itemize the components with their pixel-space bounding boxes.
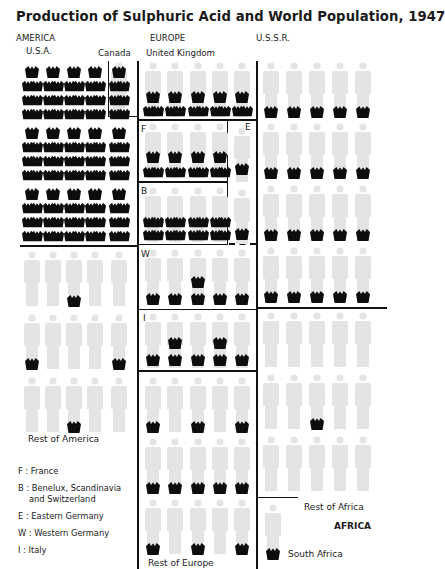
acid-vessel-icon [333,164,347,183]
acid-vessel-icon [287,164,301,183]
person-figure-icon [23,376,41,434]
acid-vessel-icon [264,288,278,307]
person-figure-icon [285,311,303,369]
acid-vessel-icon [52,105,64,124]
legend-item-western-germany: W : Western Germany [18,528,109,539]
acid-vessel-icon [52,166,64,185]
region-label-america: AMERICA [16,33,55,43]
acid-vessel-icon [94,227,106,246]
acid-vessel-icon [73,105,85,124]
person-figure-icon [308,435,326,493]
acid-vessel-icon [310,226,324,245]
acid-vessel-icon [168,479,182,498]
person-figure-icon [285,435,303,493]
person-figure-icon [110,376,128,434]
acid-vessel-icon [235,418,249,437]
person-figure-icon [166,376,184,434]
acid-vessel-icon [333,288,347,307]
person-figure-icon [166,498,184,556]
acid-vessel-icon [191,290,205,309]
label-united-kingdom: United Kingdom [146,48,215,58]
person-figure-icon [65,313,83,371]
acid-vessel-icon [152,226,164,245]
acid-vessel-icon [146,351,160,370]
person-figure-icon [211,498,229,556]
person-figure-icon [110,250,128,308]
acid-vessel-icon [287,103,301,122]
acid-vessel-icon [52,227,64,246]
acid-vessel-icon [174,163,186,182]
acid-vessel-icon [235,479,249,498]
acid-vessel-icon [235,160,249,179]
acid-vessel-icon [197,102,209,121]
acid-vessel-icon [264,103,278,122]
chart-title: Production of Sulphuric Acid and World P… [16,9,445,24]
label-canada: Canada [98,48,131,58]
acid-vessel-icon [191,540,205,559]
legend-item-italy: I : Italy [18,545,47,556]
acid-vessel-icon [356,288,370,307]
label-usa: U.S.A. [26,46,52,56]
acid-vessel-icon [168,334,182,353]
acid-vessel-icon [191,418,205,437]
acid-vessel-icon [235,351,249,370]
acid-vessel-icon [191,479,205,498]
divider-rest-africa-south [256,497,298,498]
acid-vessel-icon [152,102,164,121]
acid-vessel-icon [25,355,39,374]
acid-vessel-icon [174,226,186,245]
acid-vessel-icon [197,163,209,182]
person-figure-icon [331,435,349,493]
person-figure-icon [331,311,349,369]
acid-vessel-icon [112,355,126,374]
acid-vessel-icon [213,290,227,309]
acid-vessel-icon [31,105,43,124]
acid-vessel-icon [94,166,106,185]
acid-vessel-icon [197,226,209,245]
person-figure-icon [211,376,229,434]
acid-vessel-icon [333,226,347,245]
acid-vessel-icon [287,288,301,307]
acid-vessel-icon [146,540,160,559]
acid-vessel-icon [310,415,324,434]
acid-vessel-icon [174,102,186,121]
acid-vessel-icon [94,105,106,124]
acid-vessel-icon [118,105,130,124]
acid-vessel-icon [356,164,370,183]
acid-vessel-icon [191,273,205,292]
divider-ussr-africa [256,307,387,309]
acid-vessel-icon [235,290,249,309]
divider-w-i [138,309,256,310]
person-figure-icon [23,250,41,308]
acid-vessel-icon [168,351,182,370]
legend-item-eastern-germany: E : Eastern Germany [18,511,104,522]
acid-vessel-icon [310,288,324,307]
acid-vessel-icon [67,292,81,311]
person-figure-icon [285,373,303,431]
person-figure-icon [262,311,280,369]
label-rest-of-africa: Rest of Africa [304,502,364,512]
acid-vessel-icon [310,164,324,183]
divider-i-rest-europe [138,370,256,372]
person-figure-icon [86,250,104,308]
label-south-africa: South Africa [288,549,343,559]
acid-vessel-icon [146,418,160,437]
acid-vessel-icon [356,226,370,245]
acid-vessel-icon [73,166,85,185]
acid-vessel-icon [73,227,85,246]
divider-europe-ussr [256,61,258,569]
acid-vessel-icon [219,163,231,182]
region-label-ussr: U.S.S.R. [256,33,290,43]
acid-vessel-icon [213,479,227,498]
acid-vessel-icon [264,164,278,183]
person-figure-icon [354,435,372,493]
acid-vessel-icon [118,227,130,246]
acid-vessel-icon [266,545,280,564]
legend-item-benelux-cont: and Switzerland [29,494,96,505]
acid-vessel-icon [333,103,347,122]
person-figure-icon [44,250,62,308]
acid-vessel-icon [152,163,164,182]
person-figure-icon [86,376,104,434]
acid-vessel-icon [191,351,205,370]
divider-america-europe [137,61,139,569]
